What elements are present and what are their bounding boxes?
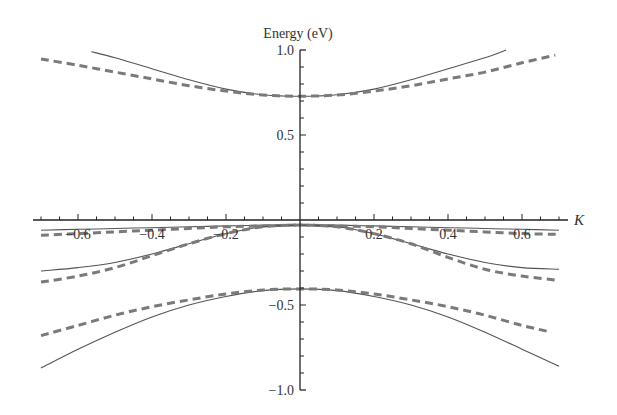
series-band-1-solid — [91, 50, 506, 96]
x-axis-title: K — [573, 212, 585, 228]
y-axis-title: Energy (eV) — [263, 26, 333, 42]
x-tick-label: −0.2 — [213, 227, 238, 242]
x-tick-label: 0.4 — [439, 227, 457, 242]
y-tick-label: 1.0 — [277, 43, 295, 58]
y-tick-label: −0.5 — [269, 298, 294, 313]
x-tick-label: −0.6 — [65, 227, 90, 242]
x-tick-label: 0.2 — [365, 227, 383, 242]
band-structure-chart: Energy (eV) K −0.6−0.4−0.20.20.40.61.00.… — [0, 0, 617, 415]
y-tick-label: 0.5 — [277, 128, 295, 143]
x-tick-label: 0.6 — [513, 227, 531, 242]
series-band-4-dashed — [41, 289, 552, 336]
y-tick-label: −1.0 — [269, 383, 294, 398]
axes-layer — [33, 50, 568, 390]
x-tick-label: −0.4 — [139, 227, 164, 242]
series-band-1-dashed — [41, 55, 555, 96]
